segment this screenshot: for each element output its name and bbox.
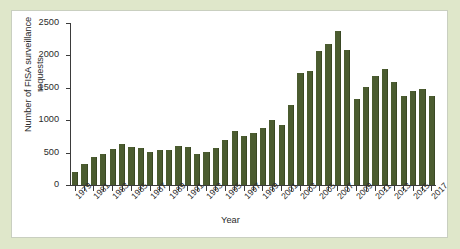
x-tick-label: 2005 (317, 180, 338, 201)
x-tick-label: 2011 (373, 181, 393, 201)
x-tick-label: 1999 (260, 180, 281, 201)
x-tick-label: 1987 (148, 180, 169, 201)
x-axis-title: Year (12, 215, 449, 225)
x-tick-label: 1995 (223, 180, 244, 201)
x-tick-label: 2009 (354, 180, 375, 201)
x-tick-label: 1979 (73, 180, 94, 201)
x-tick-label: 2015 (411, 180, 432, 201)
x-tick-label: 2007 (335, 180, 356, 201)
x-tick-label: 2003 (298, 180, 319, 201)
x-tick-label: 1981 (91, 180, 112, 201)
x-tick-label: 2001 (279, 180, 300, 201)
chart-figure-panel: Number of FISA surveillance requests 050… (11, 10, 448, 238)
x-tick-label: 1991 (185, 180, 206, 201)
x-tick-label: 2013 (392, 180, 413, 201)
x-tick-label: 1989 (167, 180, 188, 201)
x-tick-label: 2017 (429, 180, 450, 201)
x-tick-label: 1983 (110, 180, 131, 201)
x-axis-tick-labels: 1979198119831985198719891991199319951997… (12, 11, 449, 239)
x-tick-label: 1993 (204, 180, 225, 201)
plot-area: Number of FISA surveillance requests 050… (12, 11, 449, 239)
x-tick-label: 1997 (242, 180, 263, 201)
x-tick-label: 1985 (129, 180, 150, 201)
